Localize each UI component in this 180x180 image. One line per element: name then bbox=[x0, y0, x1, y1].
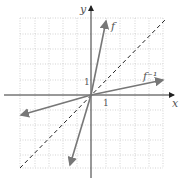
y-axis-label: y bbox=[79, 3, 87, 16]
f-inverse-line-lower bbox=[21, 95, 91, 115]
f-line-lower bbox=[70, 95, 91, 165]
graph: y x 1 1 f f⁻¹ bbox=[0, 0, 180, 180]
y-tick-label: 1 bbox=[84, 77, 90, 87]
f-line bbox=[91, 21, 106, 95]
x-axis-label: x bbox=[172, 97, 179, 110]
x-tick-label: 1 bbox=[103, 98, 109, 108]
f-label: f bbox=[110, 20, 117, 33]
f-inverse-label: f⁻¹ bbox=[142, 70, 157, 83]
axes bbox=[4, 6, 174, 178]
